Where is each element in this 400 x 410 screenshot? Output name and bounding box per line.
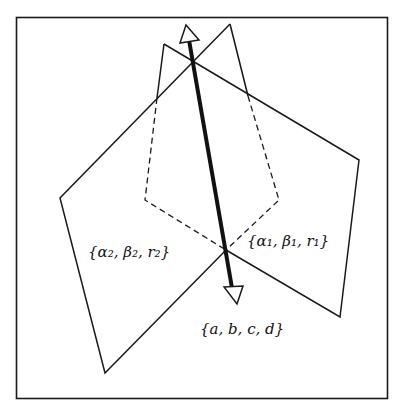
frame-border xyxy=(17,18,388,399)
label-plane-right: {α₁, β₁, r₁} xyxy=(247,232,329,250)
label-line: {a, b, c, d} xyxy=(200,320,284,338)
plane-right-left-edge xyxy=(157,44,164,98)
hidden-edge-right xyxy=(226,96,279,250)
diagram-figure: {α₂, β₂, r₂} {α₁, β₁, r₁} {a, b, c, d} xyxy=(0,0,400,410)
label-plane-left: {α₂, β₂, r₂} xyxy=(88,243,170,261)
plane-right-outline xyxy=(164,44,359,317)
intersection-line xyxy=(189,40,232,288)
arrow-down-icon xyxy=(224,286,243,304)
arrow-up-icon xyxy=(180,25,199,43)
